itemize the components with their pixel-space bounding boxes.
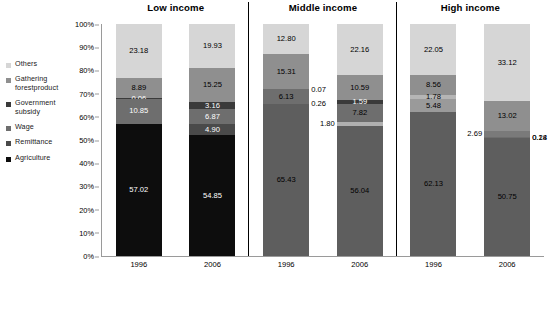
stacked-bar[interactable]: 12.8015.310.076.130.2665.43 [263,24,309,256]
panel-title: Middle income [249,2,396,13]
x-axis-tick-label: 2006 [484,260,530,269]
chart-panel: Middle income12.8015.310.076.130.2665.43… [249,24,396,256]
y-axis-tick-label: 90% [79,43,94,52]
y-axis-tick-mark [95,256,99,257]
bar-segment-value-label: 10.59 [350,84,369,92]
bar-segment-value-label: 0.18 [532,134,547,142]
x-axis-panel-labels: 19962006 [249,260,396,269]
bar-segment[interactable]: 4.90 [189,124,235,135]
y-axis-tick-label: 30% [79,182,94,191]
stacked-bar[interactable]: 33.1213.022.690.240.1850.75 [484,24,530,256]
bar-segment-value-label: 22.05 [424,46,443,54]
y-axis-tick-label: 50% [79,136,94,145]
bar-segment[interactable]: 13.02 [484,101,530,131]
y-axis: 100%90%80%70%60%50%40%30%20%10%0% [68,24,100,256]
chart-panel: Low income23.188.890.0610.8557.0219.9315… [102,24,249,256]
bar-segment-value-label: 8.56 [426,81,441,89]
bar-segment-value-label: 6.13 [279,93,294,101]
legend-item-label: Others [15,60,37,68]
y-axis-tick-label: 20% [79,205,94,214]
panel-group: Low income23.188.890.0610.8557.0219.9315… [102,24,544,256]
y-axis-tick-mark [95,233,99,234]
panel-title: High income [397,2,544,13]
bar-segment-value-label: 10.85 [129,107,148,115]
bar-segment[interactable]: 10.85 [116,99,162,124]
bar-segment[interactable]: 12.80 [263,24,309,54]
x-axis-panel-labels: 19962006 [397,260,544,269]
panel-title: Low income [102,2,249,13]
y-axis-tick-mark [95,117,99,118]
bar-segment[interactable]: 56.04 [337,126,383,256]
bar-segment-value-label: 5.48 [426,102,441,110]
bar-segment[interactable]: 5.48 [410,99,456,112]
stacked-bar[interactable]: 22.058.561.785.4862.13 [410,24,456,256]
legend-item-label: Remittance [15,138,52,146]
y-axis-tick-mark [95,70,99,71]
legend-swatch-icon [6,78,11,83]
bar-segment[interactable]: 33.12 [484,24,530,101]
bar-segment[interactable]: 54.85 [189,135,235,256]
bar-segment-value-label: 62.13 [424,180,443,188]
y-axis-tick-mark [95,94,99,95]
y-axis-tick-label: 0% [83,252,94,261]
bar-segment[interactable]: 15.25 [189,68,235,102]
bar-segment-value-label: 3.16 [205,102,220,110]
legend-item-label: Agriculture [15,154,50,162]
x-axis-tick-label: 2006 [189,260,235,269]
stacked-bar[interactable]: 23.188.890.0610.8557.02 [116,24,162,256]
y-axis-tick-label: 40% [79,159,94,168]
x-axis-tick-label: 1996 [263,260,309,269]
legend-swatch-icon [6,63,11,68]
bar-segment[interactable]: 3.16 [189,102,235,109]
bar-segment[interactable]: 22.16 [337,24,383,75]
bar-segment[interactable]: 6.13 [263,89,309,103]
bar-segment-value-label: 23.18 [129,47,148,55]
bar-segment[interactable]: 62.13 [410,112,456,256]
bar-segment[interactable]: 50.75 [484,138,530,256]
bar-segment-value-label: 57.02 [129,186,148,194]
bar-segment-value-label: 54.85 [203,192,222,200]
stacked-bar-chart: OthersGathering forestproductGovernment … [0,0,550,311]
bar-segment-value-label: 6.87 [205,113,220,121]
bar-segment-value-label: 12.80 [277,35,296,43]
legend-swatch-icon [6,141,11,146]
chart-panel: High income22.058.561.785.4862.1333.1213… [397,24,544,256]
bar-segment-value-label: 8.89 [131,84,146,92]
bar-segment-value-label: 50.75 [498,193,517,201]
legend-swatch-icon [6,157,11,162]
bar-segment[interactable]: 57.02 [116,124,162,256]
y-axis-tick-label: 80% [79,66,94,75]
bar-segment[interactable]: 22.05 [410,24,456,75]
bar-segment-value-label: 4.90 [205,126,220,134]
y-axis-tick-mark [95,47,99,48]
bar-segment[interactable]: 7.82 [337,104,383,122]
x-axis-tick-label: 1996 [410,260,456,269]
bar-segment[interactable]: 65.43 [263,104,309,256]
y-axis-tick-label: 60% [79,112,94,121]
bar-segment-value-label: 0.07 [311,86,326,94]
y-axis-tick-label: 10% [79,228,94,237]
bar-segment-value-label: 0.26 [311,100,326,108]
x-axis-labels: 199620061996200619962006 [102,260,544,269]
bar-segment-value-label: 15.25 [203,81,222,89]
bar-segment-value-label: 15.31 [277,68,296,76]
legend-item-label: Wage [15,123,34,131]
bar-segment-value-label: 19.93 [203,42,222,50]
bar-segment-value-label: 2.69 [467,130,482,138]
y-axis-tick-mark [95,186,99,187]
bar-segment[interactable]: 23.18 [116,24,162,78]
bar-segment-value-label: 1.80 [320,120,335,128]
y-axis-tick-mark [95,210,99,211]
bar-segment-value-label: 22.16 [350,46,369,54]
x-axis-panel-labels: 19962006 [102,260,249,269]
x-axis-tick-label: 1996 [116,260,162,269]
bar-segment-value-label: 7.82 [352,109,367,117]
stacked-bar[interactable]: 22.1610.591.597.821.8056.04 [337,24,383,256]
bar-segment[interactable]: 15.31 [263,54,309,90]
y-axis-tick-mark [95,140,99,141]
y-axis-tick-mark [95,24,99,25]
stacked-bar[interactable]: 19.9315.253.166.874.9054.85 [189,24,235,256]
bar-segment[interactable]: 19.93 [189,24,235,68]
plot-area: 100%90%80%70%60%50%40%30%20%10%0% Low in… [68,24,544,286]
bar-segment[interactable]: 6.87 [189,109,235,124]
